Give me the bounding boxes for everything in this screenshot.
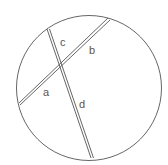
label-b: b — [89, 44, 95, 56]
label-c: c — [60, 36, 66, 48]
chord-diagram: c b a d — [0, 0, 168, 165]
label-d: d — [79, 98, 85, 110]
label-a: a — [43, 86, 50, 98]
chord-cd — [47, 29, 94, 158]
chord-ab — [19, 18, 110, 105]
